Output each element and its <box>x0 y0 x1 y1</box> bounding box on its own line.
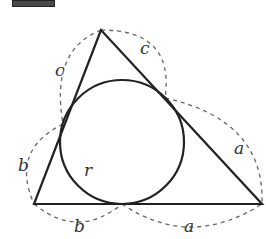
label-b-left: b <box>18 155 29 175</box>
label-c-right: c <box>140 38 150 58</box>
label-b-bottom: b <box>74 216 85 236</box>
label-c-left: c <box>55 60 65 80</box>
label-r: r <box>84 160 93 180</box>
incircle <box>60 80 184 204</box>
arc-b-left <box>27 124 63 204</box>
label-a-right: a <box>234 138 244 158</box>
label-a-bottom: a <box>184 216 194 236</box>
incircle-diagram: c c b a r b a <box>0 0 266 239</box>
